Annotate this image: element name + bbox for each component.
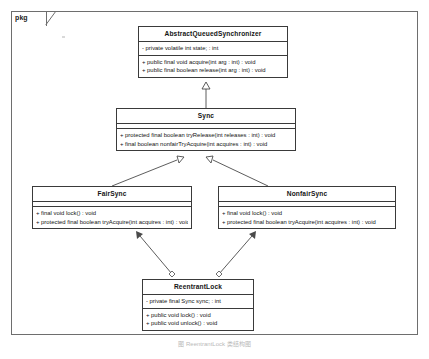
diagram-canvas: pkg FairSync --> xyxy=(0,0,429,359)
attributes-compartment-abstract-queued-synchronizer: - private volatile int state; : int xyxy=(139,42,287,56)
package-label: pkg xyxy=(15,12,28,24)
class-box-abstract-queued-synchronizer[interactable]: AbstractQueuedSynchronizer - private vol… xyxy=(138,26,288,78)
operation-row: + final void lock() : void xyxy=(222,209,392,218)
operations-compartment-abstract-queued-synchronizer: + public final void acquire(int arg : in… xyxy=(139,56,287,77)
class-name-nonfair-sync: NonfairSync xyxy=(219,187,395,202)
attribute-row: - private final Sync sync; : int xyxy=(146,297,250,306)
class-name-reentrant-lock: ReentrantLock xyxy=(143,280,253,295)
scan-speck xyxy=(62,36,65,38)
operations-compartment-fair-sync: + final void lock() : void + protected f… xyxy=(33,207,191,228)
class-name-abstract-queued-synchronizer: AbstractQueuedSynchronizer xyxy=(139,27,287,42)
class-box-fair-sync[interactable]: FairSync + final void lock() : void + pr… xyxy=(32,186,192,229)
operation-row: + public void unlock() : void xyxy=(146,319,250,328)
class-name-sync: Sync xyxy=(117,109,295,124)
operation-row: + protected final boolean tryRelease(int… xyxy=(120,131,292,140)
operation-row: + protected final boolean tryAcquire(int… xyxy=(36,218,188,227)
operation-row: + final boolean nonfairTryAcquire(int ac… xyxy=(120,140,292,149)
operations-compartment-sync: + protected final boolean tryRelease(int… xyxy=(117,129,295,150)
class-box-nonfair-sync[interactable]: NonfairSync + final void lock() : void +… xyxy=(218,186,396,229)
operations-compartment-nonfair-sync: + final void lock() : void + protected f… xyxy=(219,207,395,228)
package-tab-slant-icon xyxy=(45,11,57,27)
figure-caption: 图 ReentrantLock 类结构图 xyxy=(0,340,429,349)
package-tab-mask xyxy=(12,25,46,28)
class-box-sync[interactable]: Sync + protected final boolean tryReleas… xyxy=(116,108,296,151)
attributes-compartment-reentrant-lock: - private final Sync sync; : int xyxy=(143,295,253,309)
operation-row: + public final void acquire(int arg : in… xyxy=(142,58,284,67)
operations-compartment-reentrant-lock: + public void lock() : void + public voi… xyxy=(143,309,253,330)
class-name-fair-sync: FairSync xyxy=(33,187,191,202)
operation-row: + final void lock() : void xyxy=(36,209,188,218)
operation-row: + protected final boolean tryAcquire(int… xyxy=(222,218,392,227)
attribute-row: - private volatile int state; : int xyxy=(142,44,284,53)
operation-row: + public final boolean release(int arg :… xyxy=(142,66,284,75)
class-box-reentrant-lock[interactable]: ReentrantLock - private final Sync sync;… xyxy=(142,279,254,331)
operation-row: + public void lock() : void xyxy=(146,311,250,320)
